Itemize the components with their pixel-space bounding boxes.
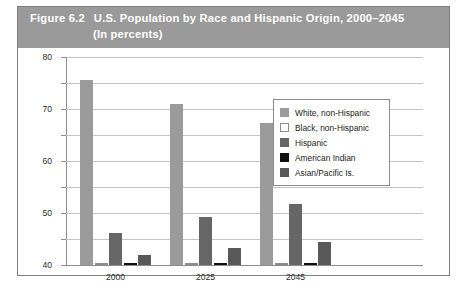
legend-item-label: American Indian (295, 153, 356, 163)
bar (124, 263, 137, 265)
legend-item-label: White, non-Hispanic (295, 108, 370, 118)
bar (199, 217, 212, 265)
x-axis-tick-label: 2025 (196, 272, 215, 282)
legend-item: Hispanic (280, 135, 383, 150)
figure-header-band: Figure 6.2U.S. Population by Race and Hi… (18, 7, 449, 48)
bar (214, 263, 227, 265)
legend-swatch-icon (280, 138, 289, 147)
bar (260, 123, 273, 265)
figure-title-line-1: Figure 6.2U.S. Population by Race and Hi… (30, 12, 404, 24)
legend-item: American Indian (280, 150, 383, 165)
legend-swatch-icon (280, 123, 289, 132)
bar (304, 263, 317, 265)
legend-item-label: Asian/Pacific Is. (295, 168, 354, 178)
y-axis-tick: 30 (61, 187, 66, 188)
legend-item-label: Hispanic (295, 138, 327, 148)
y-axis-tick: 50 (61, 135, 66, 136)
y-axis-tick: 10 (61, 239, 66, 240)
chart-legend: White, non-HispanicBlack, non-HispanicHi… (273, 99, 390, 186)
legend-swatch-icon (280, 153, 289, 162)
bar (138, 255, 151, 265)
legend-swatch-icon (280, 108, 289, 117)
bar (289, 204, 302, 265)
legend-swatch-icon (280, 168, 289, 177)
bar-group: 2000 (80, 57, 151, 265)
bar-group: 2025 (170, 57, 241, 265)
bar (80, 80, 93, 265)
y-axis-tick-label: 40 (42, 260, 52, 270)
x-axis-tick-label: 2000 (106, 272, 125, 282)
y-axis-tick-label: 60 (42, 156, 52, 166)
y-axis-tick-label: 80 (42, 52, 52, 62)
bar (170, 104, 183, 265)
x-axis-line (66, 265, 423, 266)
figure-title-text: U.S. Population by Race and Hispanic Ori… (94, 12, 404, 24)
x-axis-tick-label: 2045 (286, 272, 305, 282)
bar (275, 263, 288, 265)
chart-area: 01020304050607080 200020252045 White, no… (18, 48, 449, 275)
y-axis-tick: 40 (61, 161, 66, 162)
y-axis-tick-label: 70 (42, 104, 52, 114)
bar (95, 263, 108, 265)
y-axis-tick: 60 (61, 109, 66, 110)
legend-item: White, non-Hispanic (280, 105, 383, 120)
legend-item: Black, non-Hispanic (280, 120, 383, 135)
legend-item: Asian/Pacific Is. (280, 165, 383, 180)
legend-item-label: Black, non-Hispanic (295, 123, 369, 133)
figure-number-label: Figure 6.2 (30, 12, 85, 24)
y-axis-tick: 80 (61, 57, 66, 58)
figure-container: Figure 6.2U.S. Population by Race and Hi… (17, 6, 450, 276)
y-axis-tick-label: 50 (42, 208, 52, 218)
bar (185, 263, 198, 265)
bar (109, 233, 122, 266)
y-axis-tick: 70 (61, 83, 66, 84)
figure-title-line-2: (In percents) (93, 28, 163, 40)
bar (228, 248, 241, 265)
bar (318, 242, 331, 265)
y-axis-tick: 20 (61, 213, 66, 214)
y-axis-tick: 0 (61, 265, 66, 266)
